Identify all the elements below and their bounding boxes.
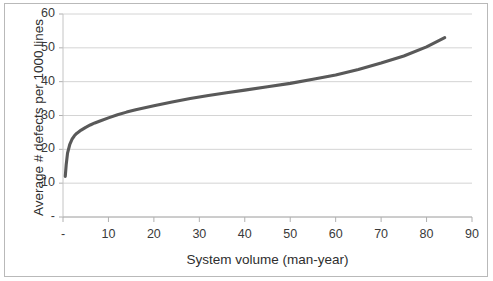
x-axis-title: System volume (man-year): [60, 252, 475, 267]
x-tick-label: 60: [316, 228, 356, 241]
x-tick-label: 30: [179, 228, 219, 241]
x-tick-label: -: [43, 228, 83, 241]
x-tick-label: 80: [407, 228, 447, 241]
data-series-line: [65, 38, 444, 177]
x-tick-label: 90: [452, 228, 492, 241]
x-tick-label: 20: [134, 228, 174, 241]
gridlines: [63, 14, 472, 217]
x-tick-label: 50: [270, 228, 310, 241]
chart-figure: -102030405060 -102030405060708090 Averag…: [0, 0, 493, 281]
y-axis-tick-marks: [59, 14, 63, 217]
x-tick-label: 70: [361, 228, 401, 241]
x-tick-label: 10: [88, 228, 128, 241]
x-tick-label: 40: [225, 228, 265, 241]
x-axis-tick-marks: [63, 217, 472, 222]
y-axis-title: Average # defects per 1000 lines: [31, 18, 46, 218]
